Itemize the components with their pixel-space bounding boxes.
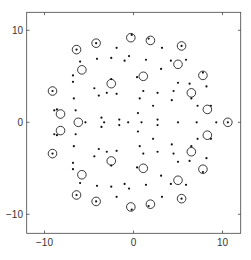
dot-marker — [156, 118, 158, 120]
dot-marker — [118, 124, 120, 126]
dot-marker — [110, 78, 112, 80]
dot-marker — [98, 148, 100, 150]
y-axis-tick-labels: 10 0 −10 — [6, 25, 23, 220]
dot-marker — [139, 97, 141, 99]
dot-marker — [142, 90, 144, 92]
dot-marker — [110, 186, 112, 188]
dot-marker — [148, 205, 150, 207]
dot-marker — [115, 150, 117, 152]
dot-marker — [161, 47, 163, 49]
dot-marker — [171, 143, 173, 145]
dot-marker — [196, 121, 198, 123]
dot-marker — [79, 60, 81, 62]
dot-marker — [115, 196, 117, 198]
dot-marker — [156, 124, 158, 126]
x-tick-label: −10 — [36, 237, 53, 248]
dot-marker — [51, 152, 53, 154]
dot-marker — [103, 121, 105, 123]
dot-marker — [160, 68, 162, 70]
dot-marker — [190, 145, 192, 147]
dot-marker — [73, 97, 75, 99]
dot-marker — [110, 164, 112, 166]
dot-marker — [106, 92, 108, 94]
dot-marker — [180, 198, 182, 200]
dot-marker — [72, 81, 74, 83]
plot-area — [27, 12, 241, 233]
dot-marker — [145, 59, 147, 61]
dot-marker — [177, 82, 179, 84]
dot-marker — [56, 134, 58, 136]
dot-marker — [136, 76, 138, 78]
dot-marker — [124, 60, 126, 62]
dot-marker — [128, 187, 130, 189]
dot-marker — [84, 121, 86, 123]
dot-marker — [96, 58, 98, 60]
dot-marker — [152, 105, 154, 107]
dot-marker — [196, 138, 198, 140]
dot-marker — [196, 105, 198, 107]
dot-marker — [142, 152, 144, 154]
dot-marker — [171, 99, 173, 101]
dot-marker — [95, 42, 97, 44]
dot-marker — [100, 126, 102, 128]
dot-marker — [227, 121, 229, 123]
dot-marker — [98, 95, 100, 97]
dot-marker — [185, 59, 187, 61]
dot-marker — [145, 184, 147, 186]
dot-marker — [96, 185, 98, 187]
dot-marker — [118, 118, 120, 120]
dot-marker — [177, 161, 179, 163]
dot-marker — [56, 108, 58, 110]
dot-marker — [202, 171, 204, 173]
dot-marker — [161, 196, 163, 198]
dot-marker — [160, 175, 162, 177]
dot-marker — [127, 121, 129, 123]
dot-marker — [185, 184, 187, 186]
dot-marker — [210, 138, 212, 140]
dot-marker — [172, 152, 174, 154]
dot-marker — [93, 87, 95, 89]
dot-marker — [110, 57, 112, 59]
dot-marker — [202, 72, 204, 74]
dot-marker — [73, 145, 75, 147]
dot-marker — [75, 194, 77, 196]
dot-marker — [100, 117, 102, 119]
dot-marker — [180, 45, 182, 47]
dot-marker — [53, 109, 55, 111]
dot-marker — [137, 112, 139, 114]
dot-marker — [136, 166, 138, 168]
dot-marker — [79, 182, 81, 184]
dot-marker — [72, 168, 74, 170]
dot-marker — [75, 49, 77, 51]
dot-marker — [72, 74, 74, 76]
dot-marker — [156, 92, 158, 94]
dot-marker — [148, 37, 150, 39]
dot-marker — [139, 145, 141, 147]
dot-marker — [106, 151, 108, 153]
dot-marker — [72, 162, 74, 164]
dot-marker — [95, 200, 97, 202]
dot-marker — [215, 121, 217, 123]
dot-marker — [115, 47, 117, 49]
y-tick-label: 10 — [12, 25, 24, 36]
dot-marker — [188, 160, 190, 162]
y-tick-label: 0 — [17, 117, 23, 128]
dot-marker — [177, 121, 179, 123]
x-axis-tick-labels: −10 0 10 — [36, 237, 228, 248]
dot-marker — [205, 157, 207, 159]
dot-marker — [156, 151, 158, 153]
dot-marker — [131, 209, 133, 211]
x-tick-label: 0 — [131, 237, 137, 248]
dot-marker — [170, 60, 172, 62]
x-tick-label: 10 — [217, 237, 229, 248]
dot-marker — [51, 90, 53, 92]
dot-marker — [128, 55, 130, 57]
dot-marker — [190, 97, 192, 99]
dot-marker — [93, 155, 95, 157]
y-tick-label: −10 — [6, 209, 23, 220]
dot-marker — [75, 109, 77, 111]
dot-marker — [115, 93, 117, 95]
dot-marker — [205, 85, 207, 87]
dot-marker — [131, 34, 133, 36]
scatter-chart: −10 0 10 10 0 −10 — [0, 0, 251, 260]
